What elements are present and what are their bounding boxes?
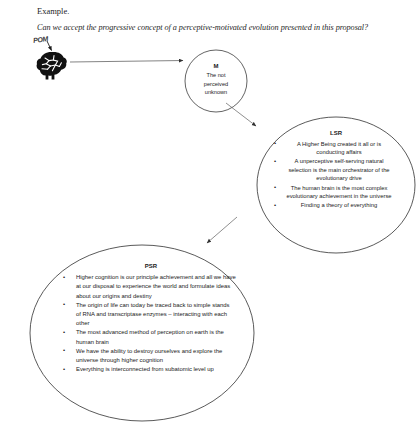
- list-item: A Higher Being created it all or is cond…: [272, 140, 400, 157]
- node-lsr-title: LSR: [272, 129, 400, 138]
- node-m-title: M: [190, 62, 242, 70]
- list-item: The most advanced method of perception o…: [58, 328, 236, 346]
- list-item: A unperceptive self-serving natural sele…: [272, 157, 400, 183]
- node-lsr-bullet-list: A Higher Being created it all or is cond…: [272, 140, 400, 210]
- list-item: We have the ability to destroy ourselves…: [58, 347, 236, 365]
- node-m-line-3: unknown: [205, 89, 227, 95]
- arrow-lsr-to-psr: [207, 217, 237, 243]
- list-item: Finding a theory of everything: [272, 201, 400, 210]
- list-item: Everything is interconnected from subato…: [58, 365, 236, 374]
- diagram-page: Example. Can we accept the progressive c…: [0, 0, 419, 446]
- arrow-brain-to-m: [70, 61, 183, 63]
- brain-icon: [36, 50, 72, 82]
- list-item: The human brain is the most complex evol…: [272, 184, 400, 201]
- list-item: The origin of life can today be traced b…: [58, 301, 236, 329]
- node-m-line-1: The not: [207, 72, 226, 78]
- node-psr: PSR Higher cognition is our principle ac…: [58, 262, 236, 374]
- node-m-line-2: perceived: [204, 81, 228, 87]
- arrow-m-to-lsr: [226, 103, 256, 126]
- node-m: M The not perceived unknown: [190, 62, 242, 97]
- node-psr-bullet-list: Higher cognition is our principle achiev…: [58, 273, 236, 374]
- node-lsr: LSR A Higher Being created it all or is …: [272, 129, 400, 210]
- node-psr-title: PSR: [66, 262, 236, 271]
- list-item: Higher cognition is our principle achiev…: [58, 273, 236, 301]
